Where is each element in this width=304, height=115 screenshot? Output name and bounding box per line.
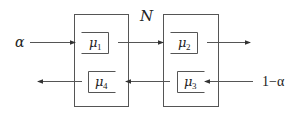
queue-mu2-subscript: 2 [186,42,191,52]
queue-network-diagram: N μ 1 μ 4 μ 2 μ 3 α 1−α [0,0,304,115]
queue-mu4: μ 4 [89,72,116,93]
input-alpha-label: α [15,34,25,50]
queue-mu3-subscript: 3 [192,81,197,91]
queue-mu2: μ 2 [171,33,198,54]
queue-mu3: μ 3 [178,72,205,93]
queue-mu1-subscript: 1 [97,42,102,52]
queue-mu4-subscript: 4 [103,81,108,91]
queue-mu1: μ 1 [82,33,109,54]
network-label: N [139,7,154,25]
input-one-minus-alpha-label: 1−α [262,74,285,89]
